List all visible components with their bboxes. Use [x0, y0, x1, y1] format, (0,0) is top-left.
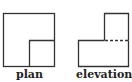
elevation-lower-block-outline: [79, 41, 129, 67]
plan-label: plan: [16, 69, 42, 80]
elevation-upper-block: [105, 14, 129, 41]
plan-view: [4, 14, 55, 67]
plan-inner-square: [30, 41, 55, 67]
elevation-lower-block: [79, 41, 129, 67]
elevation-x-label: elevation X: [76, 69, 132, 80]
elevation-x-view: [79, 14, 129, 67]
